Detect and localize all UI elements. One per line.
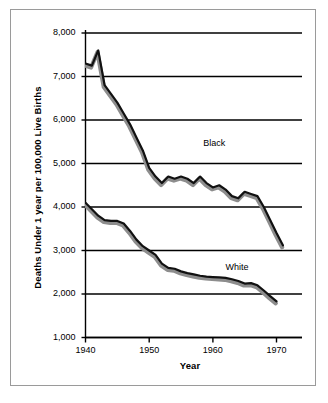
- x-tick-label: 1970: [257, 345, 297, 355]
- y-tick-label: 8,000: [34, 27, 76, 37]
- y-tick-label: 1,000: [34, 332, 76, 342]
- series-label-white: White: [226, 262, 249, 272]
- y-tick-label: 4,000: [34, 201, 76, 211]
- series-shadow-black: [85, 52, 282, 247]
- y-tick-label: 3,000: [34, 245, 76, 255]
- caption-fragment: [14, 392, 134, 400]
- y-tick-label: 2,000: [34, 288, 76, 298]
- data-series-layer: [85, 50, 283, 303]
- x-tick-label: 1950: [129, 345, 169, 355]
- series-shadow-white: [85, 205, 276, 304]
- y-tick-label: 6,000: [34, 114, 76, 124]
- y-axis-title: Deaths Under 1 year per 100,000 Live Bir…: [32, 58, 43, 318]
- figure-container: Deaths Under 1 year per 100,000 Live Bir…: [0, 0, 328, 403]
- x-axis-title: Year: [160, 360, 220, 371]
- x-tick-label: 1940: [66, 345, 106, 355]
- series-label-black: Black: [203, 138, 225, 148]
- y-tick-label: 5,000: [34, 158, 76, 168]
- x-tick-label: 1960: [193, 345, 233, 355]
- series-line-black: [86, 50, 283, 245]
- y-tick-label: 7,000: [34, 71, 76, 81]
